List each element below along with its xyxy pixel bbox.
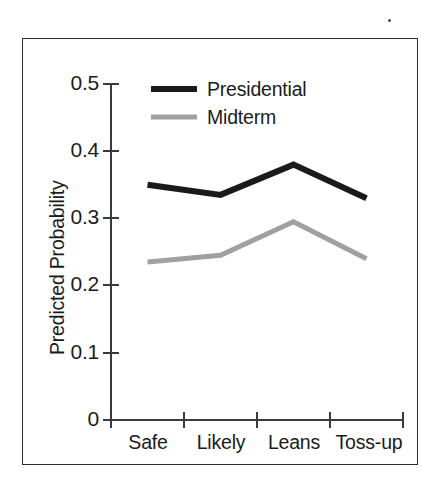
series-line-presidential (148, 165, 367, 199)
legend-label-midterm: Midterm (207, 106, 276, 129)
x-category-label-toss-up: Toss-up (324, 431, 414, 454)
legend-label-presidential: Presidential (207, 78, 307, 101)
figure-root: 0.5 0.4 0.3 0.2 0.1 0 Safe Likely Leans … (0, 0, 439, 495)
stray-ink-speck-icon (388, 19, 391, 22)
y-tick-label-1: 0.4 (39, 138, 99, 162)
x-category-label-leans: Leans (253, 431, 335, 454)
y-tick-label-0: 0.5 (39, 71, 99, 95)
chart-frame: 0.5 0.4 0.3 0.2 0.1 0 Safe Likely Leans … (22, 38, 418, 465)
series-line-midterm (148, 222, 367, 262)
y-axis-title: Predicted Probability (46, 180, 69, 355)
x-category-label-safe: Safe (107, 431, 189, 454)
y-tick-label-5: 0 (39, 407, 99, 431)
x-category-label-likely: Likely (180, 431, 262, 454)
line-chart-plot (23, 39, 416, 463)
